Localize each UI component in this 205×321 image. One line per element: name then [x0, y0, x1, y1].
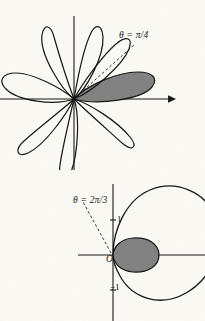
- limacon-figure: [0, 170, 205, 321]
- rose-petal-315: [74, 99, 134, 148]
- limacon-inner-loop-shaded: [113, 238, 159, 272]
- rose-x-axis-arrow-icon: [168, 95, 176, 102]
- figure-page: θ = π/4 θ = 2π/3 1 −1 O: [0, 0, 205, 321]
- limacon-tick-label-one: 1: [117, 215, 122, 224]
- limacon-origin-label: O: [106, 255, 113, 265]
- rose-shaded-petal: [74, 72, 155, 102]
- rose-theta-annotation: θ = π/4: [119, 31, 148, 41]
- limacon-tick-label-negative-one: −1: [110, 283, 120, 292]
- polar-rose-svg: [0, 0, 205, 170]
- limacon-dashed-ray: [82, 200, 111, 253]
- limacon-svg: [0, 170, 205, 321]
- rose-petal-225: [18, 99, 74, 155]
- limacon-theta-annotation: θ = 2π/3: [73, 196, 107, 206]
- polar-rose-figure: [0, 0, 205, 170]
